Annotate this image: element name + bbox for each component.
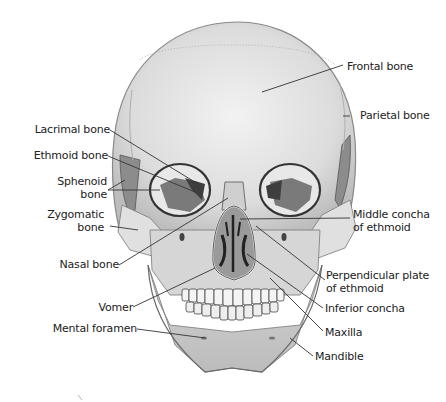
label-sphenoid-bone-line1: Sphenoid (57, 175, 107, 188)
label-perpendicular-plate-line1: Perpendicular plate (326, 269, 429, 282)
label-mental-foramen: Mental foramen (53, 322, 137, 335)
label-lacrimal-bone: Lacrimal bone (35, 123, 110, 136)
label-sphenoid-bone-line2: bone (80, 188, 107, 201)
label-vomer: Vomer (99, 301, 133, 314)
label-nasal-bone: Nasal bone (60, 258, 119, 271)
label-parietal-bone: Parietal bone (360, 109, 430, 122)
label-middle-concha-line1: Middle concha (353, 208, 430, 221)
label-ethmoid-bone: Ethmoid bone (34, 149, 108, 162)
skull-diagram: Lacrimal bone Ethmoid bone Sphenoid bone… (0, 0, 446, 402)
label-zygomatic-bone-line2: bone (77, 221, 104, 234)
label-maxilla: Maxilla (325, 326, 362, 339)
label-perpendicular-plate-line2: of ethmoid (326, 282, 384, 295)
label-frontal-bone: Frontal bone (347, 60, 413, 73)
label-mandible: Mandible (315, 350, 363, 363)
stray-mark (78, 395, 82, 400)
label-zygomatic-bone-line1: Zygomatic (47, 208, 104, 221)
label-middle-concha-line2: of ethmoid (353, 221, 411, 234)
label-inferior-concha: Inferior concha (325, 302, 405, 315)
